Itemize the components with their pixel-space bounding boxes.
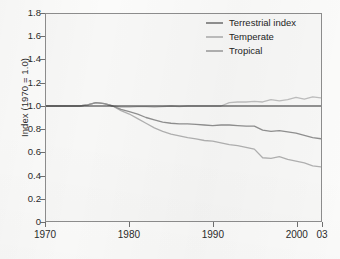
legend-line-swatch [206,22,223,24]
x-axis-tick-mark [45,222,46,227]
legend-item: Temperate [206,30,296,43]
y-axis-tick-label: 1.0 [17,101,41,111]
x-axis-tick-mark [129,222,130,227]
series-line [46,103,321,139]
y-axis-tick-labels: 00.20.40.60.81.01.21.41.61.8 [13,0,41,259]
x-axis-tick-labels: 197019801990200003 [0,229,340,245]
y-axis-tick-label: 1.6 [17,31,41,41]
series-line [46,103,321,167]
x-axis-tick-mark [297,222,298,227]
y-axis-tick-label: 0.8 [17,124,41,134]
legend-item-label: Terrestrial index [229,18,296,28]
y-axis-tick-label: 0.6 [17,148,41,158]
x-axis-tick-marks [0,222,340,228]
y-axis-tick-label: 0.4 [17,171,41,181]
x-axis-tick-label: 1980 [118,229,140,240]
x-axis-tick-label: 1970 [34,229,56,240]
y-axis-tick-label: 1.2 [17,78,41,88]
legend-item: Tropical [206,44,296,57]
x-axis-tick-mark [322,222,323,227]
y-axis-tick-label: 1.4 [17,55,41,65]
x-axis-tick-label: 03 [316,229,327,240]
x-axis-tick-mark [213,222,214,227]
chart-figure: Index (1970 = 1.0) 00.20.40.60.81.01.21.… [0,0,340,259]
y-axis-tick-label: 0.2 [17,194,41,204]
legend-item-label: Tropical [229,46,262,56]
legend-item: Terrestrial index [206,16,296,29]
chart-legend: Terrestrial indexTemperateTropical [206,16,296,58]
y-axis-tick-label: 1.8 [17,8,41,18]
legend-line-swatch [206,50,223,52]
legend-item-label: Temperate [229,32,274,42]
x-axis-tick-label: 2000 [286,229,308,240]
legend-line-swatch [206,36,223,38]
x-axis-tick-label: 1990 [202,229,224,240]
